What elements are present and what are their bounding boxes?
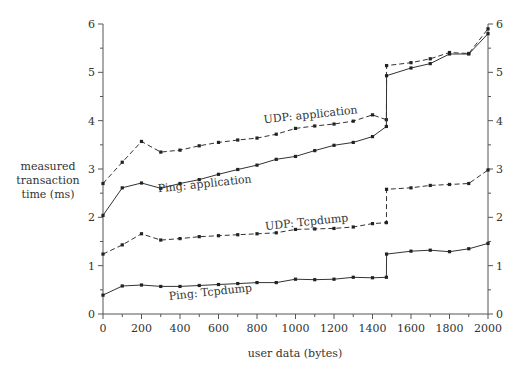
data-point-ping-tcpdump (121, 284, 124, 287)
data-point-udp-application (121, 161, 124, 164)
data-point-ping-tcpdump (275, 281, 278, 284)
x-tick-label: 200 (131, 322, 152, 335)
data-point-ping-application (332, 144, 335, 147)
series-line-udp-application (103, 29, 488, 184)
data-point-ping-application (352, 141, 355, 144)
data-point-ping-tcpdump (385, 276, 388, 279)
y-tick-label-right: 3 (496, 163, 503, 176)
data-point-udp-tcpdump (159, 238, 162, 241)
data-point-ping-tcpdump (178, 285, 181, 288)
data-point-udp-tcpdump (332, 227, 335, 230)
x-tick-label: 1400 (359, 322, 387, 335)
data-point-udp-tcpdump (178, 237, 181, 240)
data-point-udp-application (429, 57, 432, 60)
y-tick-label-right: 1 (496, 260, 503, 273)
x-tick-label: 1000 (282, 322, 310, 335)
data-point-udp-tcpdump (371, 222, 374, 225)
data-point-ping-application (313, 149, 316, 152)
data-point-ping-tcpdump (371, 276, 374, 279)
y-tick-label-left: 4 (88, 115, 95, 128)
x-tick-label: 2000 (474, 322, 502, 335)
y-tick-label-left: 0 (88, 308, 95, 321)
data-point-udp-application (409, 61, 412, 64)
data-point-udp-application (198, 144, 201, 147)
transaction-time-chart: 0200400600800100012001400160018002000001… (0, 0, 517, 375)
data-point-ping-application (385, 125, 388, 128)
y-tick-label-right: 5 (496, 66, 503, 79)
data-point-udp-tcpdump (140, 232, 143, 235)
data-point-udp-application (159, 150, 162, 153)
data-point-udp-application (352, 120, 355, 123)
data-point-udp-tcpdump (352, 225, 355, 228)
x-tick-label: 1200 (320, 322, 348, 335)
x-tick-label: 0 (100, 322, 107, 335)
series-annotation: Ping: application (157, 172, 252, 195)
x-tick-label: 400 (170, 322, 191, 335)
data-point-ping-tcpdump (467, 247, 470, 250)
data-point-udp-application (140, 140, 143, 143)
y-tick-label-right: 6 (496, 18, 503, 31)
y-axis-title-line-3: time (ms) (21, 188, 74, 201)
data-point-ping-application (255, 164, 258, 167)
data-point-udp-tcpdump (121, 243, 124, 246)
data-point-udp-tcpdump (467, 182, 470, 185)
y-tick-label-left: 1 (88, 260, 95, 273)
x-axis-title: user data (bytes) (248, 347, 342, 360)
data-point-udp-application (217, 141, 220, 144)
y-tick-label-left: 6 (88, 18, 95, 31)
data-point-ping-application (385, 74, 388, 77)
data-point-ping-application (429, 62, 432, 65)
data-point-ping-application (101, 214, 104, 217)
y-tick-label-left: 3 (88, 163, 95, 176)
labels-group: UDP: applicationPing: applicationUDP: Tc… (157, 103, 358, 303)
y-axis-title-line-1: measured (20, 160, 75, 173)
data-point-ping-application (448, 52, 451, 55)
data-point-ping-tcpdump (159, 285, 162, 288)
data-point-udp-application (101, 182, 104, 185)
data-point-udp-application (294, 127, 297, 130)
data-point-udp-tcpdump (236, 233, 239, 236)
data-point-ping-tcpdump (294, 278, 297, 281)
data-point-udp-tcpdump (409, 186, 412, 189)
x-tick-label: 1600 (397, 322, 425, 335)
y-axis-title-line-2: transaction (16, 174, 79, 187)
data-point-udp-application (313, 124, 316, 127)
data-point-udp-application (332, 122, 335, 125)
data-point-ping-tcpdump (332, 278, 335, 281)
x-tick-label: 800 (247, 322, 268, 335)
y-tick-label-left: 5 (88, 66, 95, 79)
data-point-ping-tcpdump (429, 249, 432, 252)
data-point-udp-application (275, 133, 278, 136)
data-point-udp-application (178, 149, 181, 152)
data-point-udp-tcpdump (255, 232, 258, 235)
x-tick-label: 1800 (436, 322, 464, 335)
data-point-ping-application (486, 32, 489, 35)
data-point-ping-tcpdump (409, 250, 412, 253)
data-point-udp-tcpdump (217, 234, 220, 237)
data-point-ping-application (294, 155, 297, 158)
data-point-udp-application (236, 138, 239, 141)
data-point-ping-application (467, 52, 470, 55)
data-point-ping-tcpdump (101, 294, 104, 297)
data-point-ping-application (409, 66, 412, 69)
data-point-udp-application (385, 64, 388, 67)
data-point-udp-tcpdump (448, 183, 451, 186)
data-point-ping-application (275, 158, 278, 161)
y-tick-label-right: 2 (496, 211, 503, 224)
data-point-udp-application (371, 113, 374, 116)
data-point-ping-tcpdump (385, 252, 388, 255)
axes: 0200400600800100012001400160018002000001… (88, 18, 503, 335)
y-tick-label-right: 4 (496, 115, 503, 128)
data-point-udp-tcpdump (486, 168, 489, 171)
data-point-ping-tcpdump (352, 276, 355, 279)
data-point-ping-application (121, 186, 124, 189)
data-point-ping-tcpdump (140, 283, 143, 286)
data-point-udp-tcpdump (385, 188, 388, 191)
series-group (101, 27, 489, 297)
data-point-ping-tcpdump (313, 278, 316, 281)
data-point-udp-application (486, 27, 489, 30)
data-point-udp-tcpdump (429, 184, 432, 187)
data-point-ping-tcpdump (255, 281, 258, 284)
data-point-udp-tcpdump (101, 252, 104, 255)
data-point-udp-application (255, 136, 258, 139)
